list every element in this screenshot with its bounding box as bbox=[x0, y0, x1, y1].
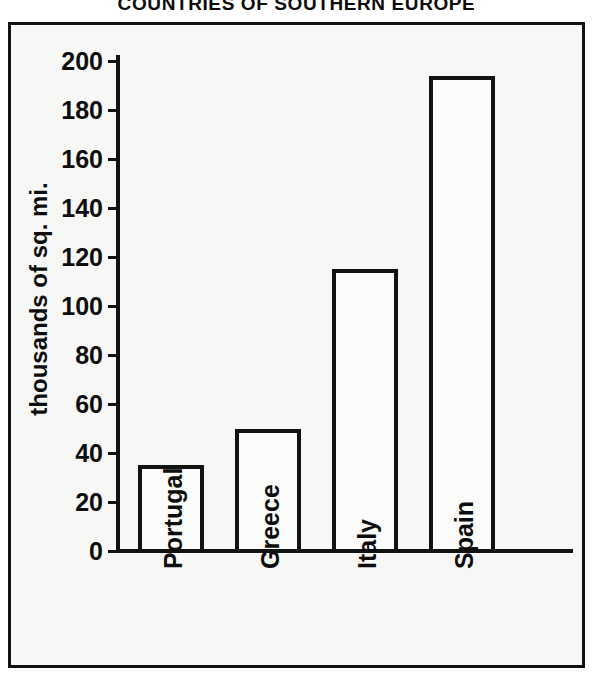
y-axis-tick-mark bbox=[108, 256, 117, 259]
plot-area: thousands of sq. mi. 0204060801001201401… bbox=[11, 25, 588, 671]
y-axis-tick-mark bbox=[108, 60, 117, 63]
y-axis-tick-label: 20 bbox=[11, 488, 103, 517]
y-axis-tick-label: 200 bbox=[11, 47, 103, 76]
y-axis-tick-label: 60 bbox=[11, 390, 103, 419]
x-axis-category-label: Portugal bbox=[159, 468, 188, 569]
y-axis-tick-mark bbox=[108, 305, 117, 308]
x-axis-category-label: Greece bbox=[256, 484, 285, 569]
bar bbox=[429, 76, 495, 553]
y-axis-tick-label: 120 bbox=[11, 243, 103, 272]
y-axis-tick-label: 40 bbox=[11, 439, 103, 468]
chart-frame: thousands of sq. mi. 0204060801001201401… bbox=[8, 22, 585, 668]
y-axis-tick-mark bbox=[108, 403, 117, 406]
bar-chart: COUNTRIES OF SOUTHERN EUROPE thousands o… bbox=[0, 0, 593, 675]
y-axis-tick-mark bbox=[108, 354, 117, 357]
y-axis-tick-mark bbox=[108, 501, 117, 504]
bar bbox=[332, 269, 398, 553]
y-axis-tick-mark bbox=[108, 207, 117, 210]
y-axis-tick-label: 80 bbox=[11, 341, 103, 370]
y-axis-tick-mark bbox=[108, 109, 117, 112]
chart-title: COUNTRIES OF SOUTHERN EUROPE bbox=[0, 0, 593, 15]
y-axis-tick-label: 0 bbox=[11, 537, 103, 566]
y-axis-tick-label: 160 bbox=[11, 145, 103, 174]
y-axis-tick-label: 140 bbox=[11, 194, 103, 223]
x-axis-category-label: Spain bbox=[450, 501, 479, 569]
y-axis-tick-label: 100 bbox=[11, 292, 103, 321]
y-axis-tick-mark bbox=[108, 158, 117, 161]
y-axis-tick-label: 180 bbox=[11, 96, 103, 125]
x-axis-category-label: Italy bbox=[353, 519, 382, 569]
y-axis-tick-mark bbox=[108, 550, 117, 553]
y-axis-tick-mark bbox=[108, 452, 117, 455]
